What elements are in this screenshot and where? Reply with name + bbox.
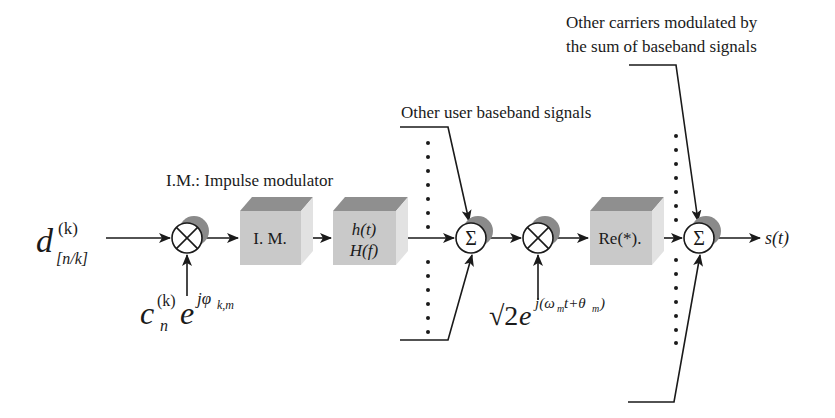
other-carriers-label-line1: Other carriers modulated by — [566, 13, 758, 32]
svg-text:d: d — [36, 222, 54, 259]
svg-text:j(ω: j(ω — [533, 295, 555, 312]
svg-text:√2: √2 — [489, 300, 518, 331]
svg-text:e: e — [519, 300, 531, 331]
svg-text:e: e — [180, 295, 194, 331]
block-re-label: Re(*). — [599, 229, 642, 248]
wire-other-user-bottom — [400, 255, 472, 340]
multiplier-node-1 — [172, 216, 209, 253]
other-user-signals-label: Other user baseband signals — [401, 103, 591, 122]
spreading-code-label: c (k) n e jφ k,m — [140, 289, 234, 334]
input-superscript: (k) — [58, 219, 78, 238]
summer-node-1: Σ — [456, 216, 493, 253]
carrier-label: √2 e j(ω m t+θ m ) — [489, 295, 605, 331]
other-carriers-label-line2: the sum of baseband signals — [566, 37, 757, 56]
input-symbol: d (k) [n/k] — [36, 219, 88, 267]
summer-node-2: Σ — [684, 216, 721, 253]
multiplier-node-2 — [523, 216, 560, 253]
svg-text:k,m: k,m — [217, 298, 234, 312]
impulse-modulator-legend: I.M.: Impulse modulator — [166, 171, 333, 190]
sigma-icon: Σ — [693, 227, 705, 249]
input-subscript: [n/k] — [56, 250, 88, 267]
block-impulse-modulator: I. M. — [240, 197, 313, 265]
svg-text:(k): (k) — [157, 292, 176, 310]
wire-other-carriers-bottom — [628, 255, 700, 402]
wire-other-user-top — [400, 127, 469, 221]
svg-text:jφ: jφ — [195, 289, 211, 308]
svg-text:n: n — [160, 317, 168, 334]
svg-text:m: m — [592, 303, 599, 314]
svg-text:): ) — [599, 295, 605, 312]
svg-text:c: c — [140, 295, 154, 331]
sigma-icon: Σ — [465, 227, 477, 249]
block-real-part: Re(*). — [590, 197, 664, 265]
block-im-label: I. M. — [253, 229, 287, 248]
block-filter: h(t) H(f) — [333, 197, 408, 265]
svg-text:t+θ: t+θ — [564, 295, 586, 311]
filter-freq-label: H(f) — [349, 241, 379, 260]
block-diagram: Other carriers modulated by the sum of b… — [0, 0, 835, 418]
output-label: s(t) — [765, 228, 789, 249]
filter-time-label: h(t) — [352, 220, 377, 239]
dots-other-carriers — [674, 134, 678, 345]
